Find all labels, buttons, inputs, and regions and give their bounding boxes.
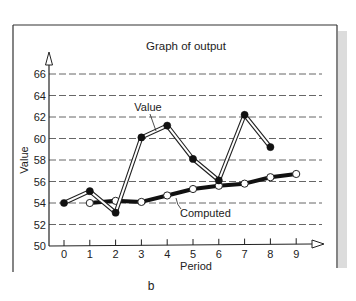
chart-frame <box>13 25 337 272</box>
value-point <box>215 177 222 184</box>
annotation-computed-label: Computed <box>180 207 231 219</box>
y-tick-label: 54 <box>34 197 46 209</box>
x-tick-label: 9 <box>293 248 299 260</box>
y-tick-label: 66 <box>34 68 46 80</box>
annotation-computed: Computed <box>176 198 231 219</box>
computed-point <box>241 180 248 187</box>
y-tick-label: 56 <box>34 176 46 188</box>
computed-point <box>267 174 274 181</box>
y-axis-arrow-icon <box>46 52 53 65</box>
chart-title: Graph of output <box>146 40 227 52</box>
y-tick-label: 58 <box>34 154 46 166</box>
computed-point <box>189 185 196 192</box>
x-tick-label: 8 <box>267 248 273 260</box>
value-point <box>112 209 119 216</box>
x-tick-label: 4 <box>164 248 170 260</box>
x-axis-label: Period <box>180 260 212 272</box>
x-tick-label: 0 <box>61 248 67 260</box>
x-axis-arrow-icon <box>312 240 324 248</box>
value-point <box>241 111 248 118</box>
value-point <box>267 144 274 151</box>
y-tick-label: 62 <box>34 111 46 123</box>
y-tick-label: 60 <box>34 133 46 145</box>
value-point <box>138 134 145 141</box>
figure-caption: b <box>148 279 155 293</box>
x-tick-label: 2 <box>113 248 119 260</box>
value-point <box>86 188 93 195</box>
y-tick-label: 52 <box>34 219 46 231</box>
frame-shadow <box>338 31 347 268</box>
x-tick-label: 6 <box>216 248 222 260</box>
x-tick-label: 1 <box>87 248 93 260</box>
y-axis-label: Value <box>18 146 30 173</box>
y-tick-labels: 505254565860626466 <box>34 68 46 252</box>
y-tick-label: 50 <box>34 240 46 252</box>
value-point <box>60 199 67 206</box>
computed-point <box>164 192 171 199</box>
output-chart: Graph of output 505254565860626466 01234… <box>0 0 356 301</box>
x-tick-label: 7 <box>242 248 248 260</box>
value-point <box>164 122 171 129</box>
x-tick-labels: 0123456789 <box>61 238 299 260</box>
x-tick-label: 3 <box>138 248 144 260</box>
computed-point <box>293 170 300 177</box>
computed-point <box>86 199 93 206</box>
computed-point <box>138 198 145 205</box>
value-point <box>189 155 196 162</box>
annotation-value-label: Value <box>134 101 161 113</box>
annotation-value: Value <box>134 101 161 131</box>
x-axis-line <box>49 244 312 246</box>
x-tick-label: 5 <box>190 248 196 260</box>
y-tick-label: 64 <box>34 90 46 102</box>
